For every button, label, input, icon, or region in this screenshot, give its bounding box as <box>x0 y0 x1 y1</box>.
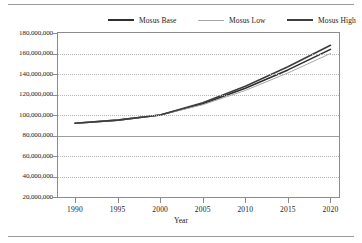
y-axis-tick-label: 180,000,000 <box>1 30 53 37</box>
x-axis-tick-label: 2020 <box>310 205 350 214</box>
gridline <box>58 54 339 55</box>
y-axis-tick-label: 160,000,000 <box>1 50 53 57</box>
y-axis-tick-label: 80,000,000 <box>1 132 53 139</box>
y-axis-tick-label: 40,000,000 <box>1 173 53 180</box>
legend-line-swatch-icon <box>287 19 313 21</box>
gridline <box>58 74 339 75</box>
top-divider-rule <box>8 4 354 5</box>
x-axis-tick-label: 2000 <box>140 205 180 214</box>
x-axis-tick-label: 1990 <box>55 205 95 214</box>
series-line <box>75 45 330 123</box>
legend-item-mosus-base: Mosus Base <box>108 16 176 25</box>
gridline <box>58 95 339 96</box>
chart-figure: Mosus Base Mosus Low Mosus High 180,000,… <box>0 0 362 243</box>
plot-inner <box>58 33 339 197</box>
y-axis-tick-label: 60,000,000 <box>1 153 53 160</box>
gridline <box>58 136 339 137</box>
y-axis-tick-label: 140,000,000 <box>1 71 53 78</box>
x-axis-title: Year <box>0 216 362 225</box>
chart-legend: Mosus Base Mosus Low Mosus High <box>108 13 356 27</box>
legend-label: Mosus High <box>318 16 356 25</box>
x-axis-tick <box>203 198 204 203</box>
x-axis-tick-label: 2005 <box>183 205 223 214</box>
y-axis-tick-label: 120,000,000 <box>1 91 53 98</box>
x-axis-tick <box>245 198 246 203</box>
legend-line-swatch-icon <box>198 20 224 21</box>
series-line <box>75 49 330 123</box>
y-axis-tick-label: 100,000,000 <box>1 112 53 119</box>
y-axis-tick-label: 20,000,000 <box>1 194 53 201</box>
legend-label: Mosus Low <box>229 16 266 25</box>
legend-label: Mosus Base <box>139 16 176 25</box>
x-axis-tick-label: 2010 <box>225 205 265 214</box>
x-axis-tick <box>118 198 119 203</box>
x-axis-tick <box>330 198 331 203</box>
plot-area <box>57 32 340 198</box>
legend-item-mosus-high: Mosus High <box>287 16 356 25</box>
x-axis-tick <box>288 198 289 203</box>
gridline <box>58 177 339 178</box>
gridline <box>58 156 339 157</box>
x-axis-tick-label: 2015 <box>268 205 308 214</box>
legend-line-swatch-icon <box>108 19 134 21</box>
bottom-divider-rule <box>8 236 354 237</box>
legend-item-mosus-low: Mosus Low <box>198 16 266 25</box>
x-axis-tick <box>75 198 76 203</box>
x-axis-tick-label: 1995 <box>98 205 138 214</box>
gridline <box>58 115 339 116</box>
x-axis-tick <box>160 198 161 203</box>
